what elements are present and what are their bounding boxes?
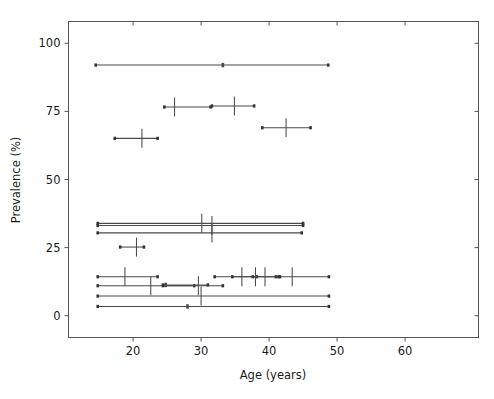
error-bar-cap-high: [207, 283, 210, 286]
error-bar-cap-low: [211, 104, 214, 107]
x-tick-label: 60: [398, 344, 413, 358]
error-bar-cap-low: [231, 275, 234, 278]
error-bar-cap-low: [261, 126, 264, 129]
point-marker: [222, 63, 225, 67]
error-bar-cap-low: [119, 245, 122, 248]
x-tick-label: 20: [126, 344, 141, 358]
y-tick-label: 75: [46, 104, 61, 118]
error-bar-cap-low: [96, 305, 99, 308]
error-bar-cap-high: [143, 245, 146, 248]
figure-background: [0, 0, 494, 399]
error-bar-cap-low: [94, 63, 97, 66]
error-bar-cap-high: [327, 63, 330, 66]
error-bar-cap-high: [222, 284, 225, 287]
error-bar-cap-high: [309, 126, 312, 129]
error-bar-cap-low: [96, 294, 99, 297]
error-bar-cap-high: [328, 275, 331, 278]
y-tick-label: 0: [53, 309, 60, 323]
x-axis-label: Age (years): [240, 368, 307, 382]
x-tick-label: 30: [194, 344, 209, 358]
y-tick-label: 100: [39, 36, 61, 50]
error-bar-cap-low: [213, 275, 216, 278]
error-bar-cap-high: [328, 305, 331, 308]
error-bar-cap-high: [156, 275, 159, 278]
error-bar-cap-high: [300, 231, 303, 234]
error-bar-cap-low: [96, 275, 99, 278]
error-bar-cap-high: [328, 294, 331, 297]
prevalence-vs-age-scatter-plot: 2030405060 0255075100 Age (years) Preval…: [0, 0, 494, 399]
error-bar-cap-low: [96, 224, 99, 227]
point-marker: [164, 283, 167, 287]
y-axis-label: Prevalence (%): [9, 137, 23, 224]
error-bar-cap-low: [96, 231, 99, 234]
x-tick-label: 40: [262, 344, 277, 358]
error-bar-cap-low: [113, 137, 116, 140]
error-bar-cap-low: [96, 284, 99, 287]
chart-figure: 2030405060 0255075100 Age (years) Preval…: [0, 0, 494, 399]
y-tick-label: 50: [46, 173, 61, 187]
error-bar-cap-low: [163, 105, 166, 108]
x-tick-label: 50: [330, 344, 345, 358]
error-bar-cap-high: [253, 104, 256, 107]
point-marker: [186, 304, 189, 308]
error-bar-cap-low: [251, 275, 254, 278]
error-bar-cap-low: [279, 275, 282, 278]
error-bar-cap-high: [302, 224, 305, 227]
error-bar-cap-low: [162, 283, 165, 286]
y-tick-label: 25: [46, 241, 61, 255]
error-bar-cap-high: [156, 137, 159, 140]
